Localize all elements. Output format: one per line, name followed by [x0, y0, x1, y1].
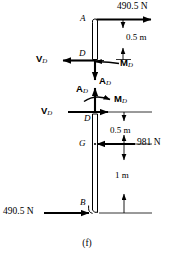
diagram-vector-graphics — [0, 0, 174, 260]
lower-axial-subscript: D — [83, 87, 88, 94]
point-label-d-lower: D — [84, 114, 91, 123]
lower-axial-symbol: A — [76, 83, 83, 94]
lower-shear-subscript: D — [47, 109, 52, 116]
lower-rod-segment — [89, 114, 98, 213]
upper-shear-subscript: D — [42, 57, 47, 64]
free-body-diagram-figure: A 490.5 N 0.5 m D VD MD AD AD MD VD D 0.… — [0, 0, 174, 260]
lower-moment-label: MD — [114, 94, 127, 105]
upper-axial-symbol: A — [99, 75, 106, 86]
point-label-g: G — [79, 139, 86, 148]
upper-axial-label: AD — [99, 76, 111, 87]
upper-moment-subscript: D — [128, 61, 133, 68]
weight-force-label: 981 N — [137, 138, 161, 148]
lower-moment-subscript: D — [122, 97, 127, 104]
lower-applied-force-label: 490.5 N — [3, 207, 34, 217]
lower-axial-label: AD — [76, 84, 88, 95]
lower-moment-symbol: M — [114, 93, 122, 104]
lower-shear-label: VD — [41, 106, 52, 117]
lower-internal-reactions — [68, 88, 110, 112]
upper-shear-label: VD — [36, 54, 47, 65]
dimension-label-ad: 0.5 m — [126, 33, 147, 42]
upper-axial-subscript: D — [106, 79, 111, 86]
upper-moment-label: MD — [120, 58, 133, 69]
point-label-a: A — [80, 14, 86, 23]
dimension-label-gb: 1 m — [115, 171, 129, 180]
point-label-b: B — [80, 198, 86, 207]
figure-caption: (f) — [0, 238, 174, 248]
upper-moment-symbol: M — [120, 57, 128, 68]
upper-rod-segment — [92, 19, 97, 60]
upper-applied-force-label: 490.5 N — [117, 2, 148, 12]
point-label-d-upper: D — [79, 49, 86, 58]
dimension-label-dg: 0.5 m — [110, 126, 131, 135]
